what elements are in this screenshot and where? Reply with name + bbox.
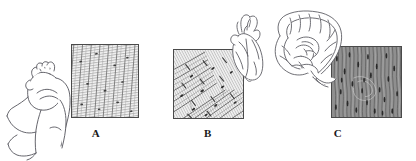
panel-letter-c: C bbox=[329, 128, 347, 139]
heart-icon bbox=[226, 12, 268, 88]
muscle-tissue-figure: A bbox=[0, 0, 416, 161]
panel-letter-a: A bbox=[87, 128, 105, 139]
skeletal-muscle-micrograph-icon bbox=[71, 44, 139, 118]
panel-letter-b: B bbox=[199, 128, 217, 139]
intestine-icon bbox=[266, 6, 348, 96]
